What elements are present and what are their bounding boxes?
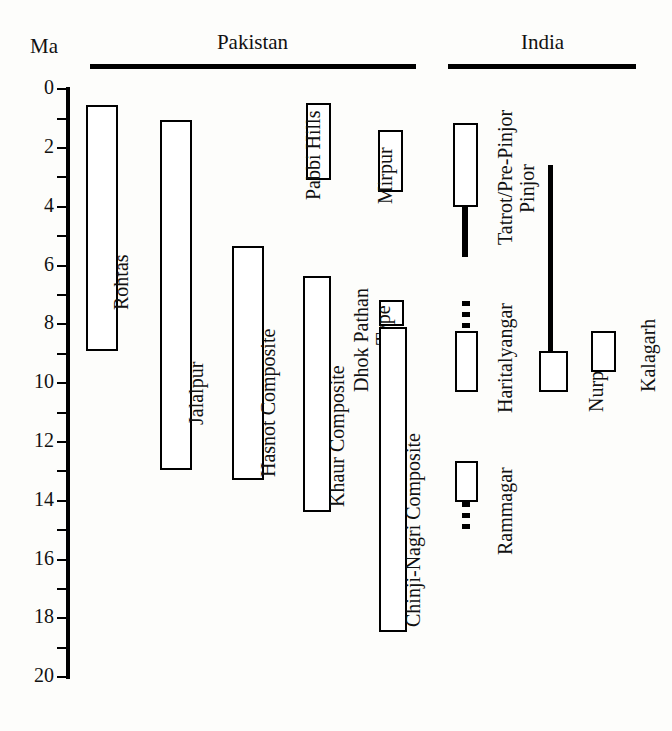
region-header-pakistan: Pakistan (165, 30, 340, 55)
axis-tick-18 (57, 617, 70, 619)
axis-tick-1 (57, 118, 66, 120)
bar-label-tatrot-pre-pinjor: Tatrot/Pre-Pinjor (494, 110, 517, 245)
axis-tick-0 (57, 88, 70, 90)
axis-tick-2 (57, 147, 70, 149)
bar-haritalyangar-dotted[interactable] (462, 301, 470, 331)
axis-tick-4 (57, 206, 70, 208)
stratigraphic-range-chart: Pakistan India Ma 0 2 4 6 8 10 12 14 16 … (0, 0, 672, 731)
bar-rammagar-dotted[interactable] (462, 502, 470, 534)
bar-label-chinji-nagri-composite: Chinji-Nagri Composite (402, 433, 425, 627)
axis-tick-6 (57, 265, 70, 267)
axis-tick-9 (57, 353, 66, 355)
region-header-india: India (455, 30, 630, 55)
bar-label-kalagarh: Kalagarh (637, 319, 660, 392)
axis-tick-8 (57, 323, 70, 325)
axis-tick-label-0: 0 (18, 76, 54, 99)
axis-tick-14 (57, 500, 70, 502)
axis-tick-label-16: 16 (10, 547, 54, 570)
bar-label-rohtas: Rohtas (110, 254, 133, 310)
axis-tick-13 (57, 470, 66, 472)
bar-tatrot-pre-pinjor[interactable] (453, 123, 478, 207)
axis-tick-10 (57, 382, 70, 384)
bar-rammagar[interactable] (455, 461, 478, 502)
bar-label-pinjor: Pinjor (516, 164, 539, 213)
bar-label-pabbi-hills: Pabbi Hills (302, 111, 325, 200)
bar-pinjor[interactable] (548, 165, 553, 352)
axis-tick-11 (57, 412, 66, 414)
region-rule-india (448, 64, 636, 69)
axis-tick-label-4: 4 (18, 194, 54, 217)
axis-tick-19 (57, 647, 66, 649)
axis-tick-17 (57, 588, 66, 590)
axis-title-ma: Ma (30, 34, 58, 59)
axis-tick-label-20: 20 (10, 664, 54, 687)
bar-rohtas[interactable] (86, 105, 118, 351)
bar-tatrot-pre-pinjor-extension[interactable] (462, 206, 468, 257)
axis-tick-label-12: 12 (10, 429, 54, 452)
bar-label-khaur-composite: Khaur Composite (326, 365, 349, 507)
axis-tick-label-18: 18 (10, 605, 54, 628)
axis-tick-label-14: 14 (10, 488, 54, 511)
bar-label-dhok-pathan-line1: Dhok Pathan (350, 288, 373, 392)
axis-tick-5 (57, 235, 66, 237)
axis-tick-15 (57, 529, 66, 531)
bar-kalagarh[interactable] (591, 331, 616, 372)
bar-label-mirpur: Mirpur (374, 147, 397, 204)
axis-tick-3 (57, 176, 66, 178)
axis-tick-label-8: 8 (18, 311, 54, 334)
bar-label-haritalyangar: Haritalyangar (494, 303, 517, 413)
axis-tick-16 (57, 559, 70, 561)
bar-haritalyangar[interactable] (455, 331, 478, 392)
bar-nurpur[interactable] (539, 351, 568, 392)
bar-label-hasnot-composite: Hasnot Composite (257, 329, 280, 477)
axis-tick-label-2: 2 (18, 135, 54, 158)
bar-label-jalalpur: Jalalpur (185, 362, 208, 425)
region-rule-pakistan (90, 64, 416, 69)
bar-label-rammagar: Rammagar (494, 467, 517, 555)
axis-tick-12 (57, 441, 70, 443)
axis-tick-7 (57, 294, 66, 296)
axis-tick-label-6: 6 (18, 253, 54, 276)
axis-tick-20 (57, 676, 70, 678)
axis-tick-label-10: 10 (10, 370, 54, 393)
